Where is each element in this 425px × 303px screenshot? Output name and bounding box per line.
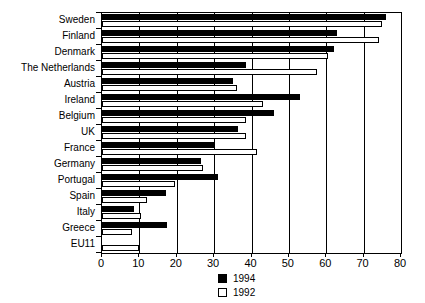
bar-belgium-1994 [102,110,274,116]
legend-label: 1994 [233,273,255,284]
x-axis-tick-label: 50 [282,257,294,270]
y-axis-label-spain: Spain [69,190,95,201]
bar-italy-1994 [102,206,134,212]
y-axis-label-the-netherlands: The Netherlands [21,62,95,73]
bar-ireland-1994 [102,94,300,100]
legend-item-1992: 1992 [218,286,308,299]
bar-row [102,61,401,77]
bar-row [102,221,401,237]
y-axis-label-sweden: Sweden [59,14,95,25]
y-axis-label-ireland: Ireland [64,94,95,105]
bar-greece-1992 [102,229,132,235]
bar-austria-1994 [102,78,233,84]
x-axis-tick-label: 40 [244,257,256,270]
y-axis-label-denmark: Denmark [54,46,95,57]
bar-germany-1994 [102,158,201,164]
y-axis-label-finland: Finland [62,30,95,41]
bar-france-1992 [102,149,257,155]
y-axis-label-eu11: EU11 [71,238,95,249]
bar-row [102,141,401,157]
legend-swatch-filled-icon [218,274,227,283]
bar-uk-1992 [102,133,246,139]
bar-denmark-1994 [102,46,334,52]
bar-row [102,205,401,221]
bar-the-netherlands-1992 [102,69,317,75]
plot-area [101,12,402,254]
x-axis-tick-label: 10 [132,257,144,270]
y-axis-label-uk: UK [81,126,95,137]
y-axis-label-france: France [64,142,95,153]
bar-germany-1992 [102,165,203,171]
x-axis-tick-label: 20 [170,257,182,270]
legend-item-1994: 1994 [218,272,308,285]
bar-row [102,157,401,173]
bar-row [102,77,401,93]
bar-spain-1992 [102,197,147,203]
y-axis-label-italy: Italy [77,206,95,217]
x-axis-tick-label: 60 [319,257,331,270]
bar-uk-1994 [102,126,238,132]
bar-italy-1992 [102,213,141,219]
y-axis-label-belgium: Belgium [59,110,95,121]
bar-sweden-1992 [102,21,382,27]
bar-portugal-1994 [102,174,218,180]
bar-eu11-1992 [102,245,139,251]
bar-rows [102,13,401,253]
y-axis-label-greece: Greece [62,222,95,233]
bar-finland-1992 [102,37,379,43]
bar-greece-1994 [102,222,167,228]
bar-row [102,237,401,253]
y-axis-label-austria: Austria [64,78,95,89]
x-axis-tick-label: 0 [98,257,104,270]
bar-spain-1994 [102,190,166,196]
bar-row [102,13,401,29]
x-axis-tick-label: 70 [357,257,369,270]
bar-row [102,93,401,109]
x-axis-tick-label: 80 [394,257,406,270]
bar-chart: SwedenFinlandDenmarkThe NetherlandsAustr… [0,0,425,303]
bar-the-netherlands-1994 [102,62,246,68]
y-axis-labels: SwedenFinlandDenmarkThe NetherlandsAustr… [0,12,95,252]
bar-row [102,173,401,189]
y-axis-label-germany: Germany [54,158,95,169]
chart-legend: 1994 1992 [218,272,308,300]
bar-row [102,45,401,61]
bar-austria-1992 [102,85,237,91]
bar-finland-1994 [102,30,337,36]
bar-row [102,109,401,125]
y-axis-label-portugal: Portugal [58,174,95,185]
legend-label: 1992 [233,287,255,298]
bar-row [102,189,401,205]
bar-portugal-1992 [102,181,175,187]
bar-sweden-1994 [102,14,386,20]
bar-row [102,125,401,141]
bar-ireland-1992 [102,101,263,107]
bar-france-1994 [102,142,214,148]
x-axis-tick-label: 30 [207,257,219,270]
bar-belgium-1992 [102,117,246,123]
bar-denmark-1992 [102,53,328,59]
legend-swatch-hollow-icon [218,288,227,297]
x-axis-tick-labels: 01020304050607080 [0,257,425,271]
bar-row [102,29,401,45]
